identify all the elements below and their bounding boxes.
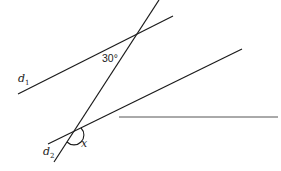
angle-x-label: x [81, 137, 88, 150]
line-d2 [48, 49, 242, 144]
d2-label: d2 [43, 145, 55, 160]
d2-subscript: 2 [50, 152, 54, 160]
d1-label: d1 [18, 72, 30, 87]
diagram-svg: 30° x d1 d2 [0, 0, 281, 171]
angle-30-label: 30° [102, 52, 118, 64]
d1-subscript: 1 [25, 79, 29, 87]
transversal-line [54, 0, 159, 162]
d2-letter: d [43, 145, 50, 158]
geometry-diagram: 30° x d1 d2 [0, 0, 281, 171]
d1-letter: d [18, 72, 25, 85]
line-d1 [18, 16, 173, 94]
